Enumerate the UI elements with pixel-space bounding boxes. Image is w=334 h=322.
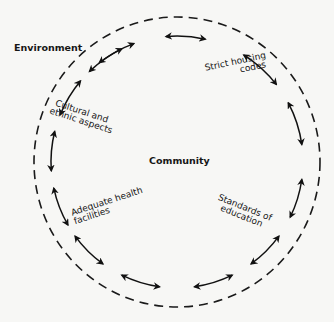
double-arrow-icon <box>195 275 233 287</box>
community-environment-diagram: Environment Community Strict housing cod… <box>0 0 334 322</box>
double-arrow-icon <box>288 103 302 145</box>
double-arrow-icon <box>166 36 205 39</box>
community-label: Community <box>149 156 210 166</box>
double-arrow-icon <box>251 236 279 264</box>
double-arrow-icon <box>54 188 68 225</box>
double-arrow-icon <box>90 49 122 72</box>
double-arrow-icon <box>290 180 302 218</box>
double-arrow-icon <box>75 236 103 264</box>
double-arrow-icon <box>51 132 55 171</box>
double-arrow-icon <box>122 275 160 287</box>
environment-label: Environment <box>14 43 82 53</box>
